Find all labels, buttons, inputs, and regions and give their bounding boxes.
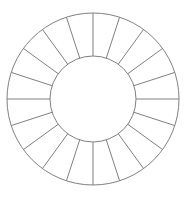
inner-circle bbox=[50, 56, 136, 142]
segmented-ring-diagram bbox=[0, 0, 191, 198]
